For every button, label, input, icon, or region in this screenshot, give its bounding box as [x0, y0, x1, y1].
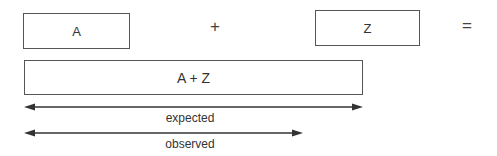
expected-arrow	[24, 104, 363, 111]
observed-label: observed	[165, 137, 214, 151]
observed-arrow	[24, 130, 303, 137]
arrows-layer	[0, 0, 497, 156]
expected-label: expected	[166, 111, 215, 125]
